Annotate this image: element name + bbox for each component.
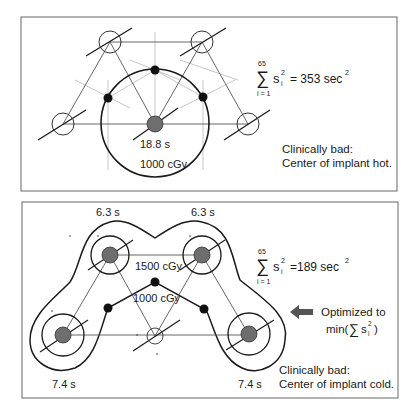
sigma-icon: ∑ (256, 68, 269, 88)
bottom-panel: 6.3 s 6.3 s 7.4 s 7.4 s 1500 cGy 1000 cG… (22, 202, 398, 398)
optimized-to-text: Optimized to (321, 306, 386, 318)
central-source-icon (147, 116, 163, 132)
sum-result-sup: 2 (345, 69, 349, 76)
sum-term: s (273, 71, 280, 86)
sum-formula: 65 ∑ i = 1 s i 2 =189 sec 2 (256, 248, 349, 285)
sigma-icon: ∑ (256, 256, 269, 276)
source-icon (194, 247, 210, 263)
sum-term: s (273, 259, 280, 274)
dose-point-icon (199, 93, 208, 102)
sum-upper-limit: 65 (258, 60, 266, 67)
svg-text:s: s (361, 323, 367, 335)
svg-text:2: 2 (368, 320, 372, 327)
source-icon (241, 326, 257, 342)
time-label-bottom-left: 7.4 s (52, 378, 76, 390)
note-line-2: Center of implant cold. (279, 378, 394, 390)
sum-term-sup: 2 (281, 69, 285, 76)
isodose-1000-label: 1000 cGy (133, 292, 181, 304)
svg-text:): ) (374, 323, 378, 335)
time-label-top-left: 6.3 s (96, 206, 120, 218)
note-line-1: Clinically bad: (282, 143, 353, 155)
source-time-label: 18.8 s (140, 138, 170, 150)
top-panel: 18.8 s 1000 cGy 65 ∑ i = 1 s i 2 = 353 s… (21, 17, 397, 191)
source-connection-lines (63, 42, 248, 124)
dose-point-icon (151, 66, 160, 75)
dose-point-icon (104, 304, 113, 313)
time-label-top-right: 6.3 s (191, 206, 215, 218)
sum-formula: 65 ∑ i = 1 s i 2 = 353 sec 2 (256, 60, 349, 97)
left-arrow-icon (290, 305, 313, 319)
svg-text:min(: min( (326, 323, 349, 335)
note-line-1: Clinically bad: (279, 364, 350, 376)
isodose-label: 1000 cGy (140, 158, 188, 170)
sum-result: = 353 sec (290, 72, 342, 86)
svg-text:i: i (368, 330, 369, 337)
note-line-2: Center of implant hot. (282, 157, 392, 169)
source-icon (55, 327, 71, 343)
sum-term-sup: 2 (281, 257, 285, 264)
sum-result-sup: 2 (345, 257, 349, 264)
dose-point-icon (200, 305, 209, 314)
sum-upper-limit: 65 (258, 248, 266, 255)
sum-result: =189 sec (290, 260, 339, 274)
dose-point-icon (104, 94, 113, 103)
sum-lower-limit: i = 1 (257, 90, 271, 97)
isodose-1500-label: 1500 cGy (135, 260, 183, 272)
sigma-icon: ∑ (349, 321, 359, 337)
sum-term-sub: i (281, 80, 283, 87)
source-icon (102, 247, 118, 263)
time-label-bottom-right: 7.4 s (238, 378, 262, 390)
dose-optimization-figure: 18.8 s 1000 cGy 65 ∑ i = 1 s i 2 = 353 s… (0, 0, 417, 410)
sum-lower-limit: i = 1 (257, 278, 271, 285)
dose-point-icon (151, 278, 160, 287)
sum-term-sub: i (281, 268, 283, 275)
min-sum-formula: min( ∑ s i 2 ) (326, 320, 378, 337)
